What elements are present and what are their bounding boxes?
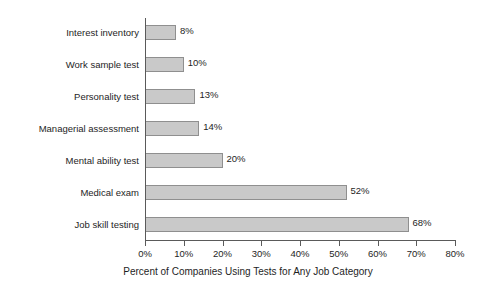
bar-value-interest-inventory: 8% [180,25,194,36]
x-tick-label-80: 80% [435,248,475,259]
x-tick-label-60: 60% [358,248,398,259]
bar-value-medical-exam: 52% [351,185,370,196]
x-tick-label-0: 0% [125,248,165,259]
category-label-interest-inventory: Interest inventory [66,27,139,38]
x-axis-title: Percent of Companies Using Tests for Any… [0,266,496,278]
bar-personality-test[interactable] [145,89,195,104]
bar-value-managerial-assessment: 14% [203,121,222,132]
category-axis-labels: Interest inventory Work sample test Pers… [0,0,139,294]
x-tick-label-70: 70% [396,248,436,259]
x-tick-80 [455,241,456,246]
x-tick-0 [145,241,146,246]
bar-value-work-sample-test: 10% [188,57,207,68]
category-label-managerial-assessment: Managerial assessment [39,123,139,134]
x-tick-70 [416,241,417,246]
x-tick-30 [261,241,262,246]
category-label-personality-test: Personality test [74,91,139,102]
bar-interest-inventory[interactable] [145,25,176,40]
bar-value-personality-test: 13% [199,89,218,100]
x-tick-label-40: 40% [280,248,320,259]
x-tick-label-50: 50% [319,248,359,259]
category-label-work-sample-test: Work sample test [66,59,139,70]
category-label-job-skill-testing: Job skill testing [75,219,139,230]
x-tick-10 [184,241,185,246]
bar-work-sample-test[interactable] [145,57,184,72]
x-tick-60 [378,241,379,246]
x-tick-20 [223,241,224,246]
bar-job-skill-testing[interactable] [145,217,409,232]
x-tick-50 [339,241,340,246]
bar-value-job-skill-testing: 68% [413,217,432,228]
x-tick-label-30: 30% [241,248,281,259]
y-axis-line [145,18,146,241]
category-label-mental-ability-test: Mental ability test [66,155,139,166]
bar-managerial-assessment[interactable] [145,121,199,136]
plot-area: 8% 10% 13% 14% 20% 52% 68% [145,18,455,240]
category-label-medical-exam: Medical exam [80,187,139,198]
x-tick-40 [300,241,301,246]
bar-mental-ability-test[interactable] [145,153,223,168]
bar-medical-exam[interactable] [145,185,347,200]
bar-chart: Interest inventory Work sample test Pers… [0,0,496,294]
x-tick-label-10: 10% [164,248,204,259]
bar-value-mental-ability-test: 20% [227,153,246,164]
x-tick-label-20: 20% [203,248,243,259]
